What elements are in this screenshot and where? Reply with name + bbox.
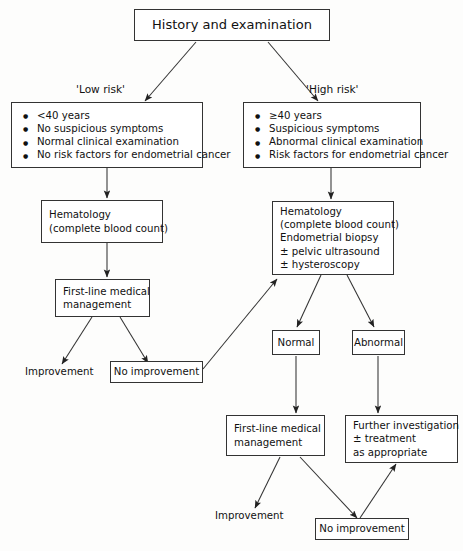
criteria-item: Abnormal clinical examination: [254, 135, 420, 148]
no-improvement-text: No improvement: [114, 365, 199, 378]
node-hematology-low-risk[interactable]: Hematology (complete blood count): [41, 200, 163, 243]
node-first-line-management-low[interactable]: First-line medical management: [55, 279, 150, 317]
outcome-text: Normal: [278, 336, 315, 349]
edge-firstline2-to-improvement: [255, 457, 280, 508]
criteria-item: <40 years: [22, 109, 202, 122]
further-investigation-line: Further investigation: [353, 419, 459, 432]
hematology-line: (complete blood count): [49, 222, 168, 235]
edge-title-to-low: [145, 42, 196, 101]
label-improvement-bottom: Improvement: [215, 510, 284, 521]
management-line: management: [63, 298, 131, 311]
edge-firstline-to-noimprovement: [120, 317, 148, 363]
hematology-line: ± hysteroscopy: [280, 258, 360, 271]
criteria-item: Normal clinical examination: [22, 135, 202, 148]
edge-hemahigh-to-normal: [297, 275, 321, 327]
management-line: First-line medical: [234, 422, 321, 435]
criteria-item: No suspicious symptoms: [22, 122, 202, 135]
flowchart-edges: [0, 0, 463, 551]
management-line: First-line medical: [63, 285, 150, 298]
criteria-item: Suspicious symptoms: [254, 122, 420, 135]
label-low-risk: 'Low risk': [76, 83, 125, 95]
node-first-line-management-normal[interactable]: First-line medical management: [226, 415, 325, 456]
node-history-and-examination[interactable]: History and examination: [134, 9, 330, 41]
criteria-item: ≥40 years: [254, 109, 420, 122]
further-investigation-line: as appropriate: [353, 446, 427, 459]
management-line: management: [234, 436, 302, 449]
node-high-risk-criteria[interactable]: ≥40 years Suspicious symptoms Abnormal c…: [243, 102, 421, 168]
outcome-text: Abnormal: [354, 336, 403, 349]
edge-firstline2-to-noimprovement: [300, 457, 357, 518]
node-outcome-abnormal[interactable]: Abnormal: [352, 330, 405, 355]
edge-noimp-to-hema-high: [203, 279, 277, 369]
hematology-line: ± pelvic ultrasound: [280, 245, 380, 258]
node-further-investigation[interactable]: Further investigation ± treatment as app…: [345, 415, 458, 463]
node-no-improvement-low[interactable]: No improvement: [110, 361, 203, 383]
hematology-line: Hematology: [280, 205, 342, 218]
further-investigation-line: ± treatment: [353, 432, 416, 445]
label-high-risk: 'High risk': [306, 83, 359, 95]
edge-noimp2-to-further: [360, 464, 396, 518]
edge-firstline-to-improvement: [62, 317, 92, 364]
edge-hemahigh-to-abnormal: [347, 275, 374, 327]
node-no-improvement-bottom[interactable]: No improvement: [315, 518, 409, 540]
flowchart-canvas: History and examination 'Low risk' 'High…: [0, 0, 463, 551]
label-improvement-low: Improvement: [25, 366, 94, 377]
node-title-text: History and examination: [152, 17, 312, 34]
node-low-risk-criteria[interactable]: <40 years No suspicious symptoms Normal …: [11, 102, 203, 168]
hematology-line: (complete blood count): [280, 218, 399, 231]
no-improvement-text: No improvement: [319, 522, 404, 535]
node-hematology-high-risk[interactable]: Hematology (complete blood count) Endome…: [272, 201, 394, 275]
node-outcome-normal[interactable]: Normal: [272, 330, 320, 355]
criteria-item: No risk factors for endometrial cancer: [22, 148, 202, 161]
hematology-line: Endometrial biopsy: [280, 231, 378, 244]
criteria-item: Risk factors for endometrial cancer: [254, 148, 420, 161]
hematology-line: Hematology: [49, 208, 111, 221]
